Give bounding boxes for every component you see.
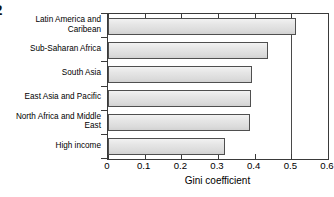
x-axis-tick-label: 0.4 bbox=[247, 160, 260, 172]
x-axis-tick-label: 0.6 bbox=[320, 160, 333, 172]
x-axis-title: Gini coefficient bbox=[107, 175, 328, 187]
category-label: High income bbox=[1, 141, 101, 150]
bar bbox=[108, 18, 296, 35]
category-label: Sub-Saharan Africa bbox=[1, 44, 101, 53]
x-axis-tick-top bbox=[328, 14, 329, 19]
x-axis-tick-label: 0.2 bbox=[174, 160, 187, 172]
category-axis-labels: Latin America and CaribeanSub-Saharan Af… bbox=[2, 13, 104, 158]
bar bbox=[108, 90, 251, 107]
x-axis-tick-labels: 00.10.20.30.40.50.6 bbox=[0, 160, 333, 174]
x-axis-tick-bottom bbox=[255, 154, 256, 159]
bar bbox=[108, 42, 268, 59]
reference-line bbox=[291, 14, 292, 159]
bar bbox=[108, 138, 225, 155]
x-axis-tick-bottom bbox=[328, 154, 329, 159]
category-label: South Asia bbox=[1, 68, 101, 77]
category-label: North Africa and Middle East bbox=[1, 112, 101, 131]
bar bbox=[108, 114, 250, 131]
x-axis-tick-label: 0.3 bbox=[210, 160, 223, 172]
x-axis-tick-bottom bbox=[291, 154, 292, 159]
x-axis-tick-label: 0.1 bbox=[137, 160, 150, 172]
x-axis-tick-label: 0 bbox=[104, 160, 109, 172]
category-label: East Asia and Pacific bbox=[1, 92, 101, 101]
plot-area bbox=[107, 13, 329, 160]
x-axis-tick-label: 0.5 bbox=[284, 160, 297, 172]
category-label: Latin America and Caribean bbox=[1, 15, 101, 34]
bar bbox=[108, 66, 252, 83]
